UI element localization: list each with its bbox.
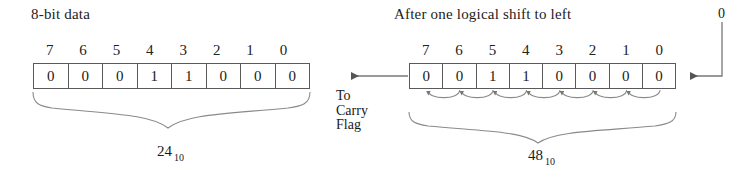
shift-arrow-group bbox=[428, 90, 660, 98]
before-bit-index-1: 6 bbox=[66, 40, 99, 60]
before-decimal-base: 10 bbox=[174, 152, 184, 163]
after-bit-cell-5: 0 bbox=[576, 64, 609, 88]
shift-arrow-6 bbox=[629, 90, 660, 98]
after-decimal-base: 10 bbox=[545, 156, 555, 167]
after-bit-cell-3: 1 bbox=[510, 64, 543, 88]
after-bit-index-4: 3 bbox=[543, 40, 576, 60]
after-bit-index-row: 76543210 bbox=[409, 40, 676, 60]
after-decimal-value: 4810 bbox=[528, 147, 553, 164]
before-bit-index-3: 4 bbox=[133, 40, 166, 60]
before-bit-cell-2: 0 bbox=[103, 64, 138, 88]
shift-arrow-0 bbox=[428, 90, 459, 98]
carry-flag-line-2: Carry bbox=[336, 104, 368, 119]
after-bit-index-3: 4 bbox=[509, 40, 542, 60]
after-bit-cell-0: 0 bbox=[410, 64, 443, 88]
before-decimal-value: 2410 bbox=[157, 143, 182, 160]
after-bit-cell-6: 0 bbox=[610, 64, 643, 88]
before-decimal-number: 24 bbox=[157, 143, 172, 159]
after-decimal-number: 48 bbox=[528, 147, 543, 163]
after-bit-index-5: 2 bbox=[576, 40, 609, 60]
shift-arrow-2 bbox=[495, 90, 526, 98]
carry-flag-label: To Carry Flag bbox=[336, 89, 368, 133]
after-bit-cell-1: 0 bbox=[443, 64, 476, 88]
shift-left-diagram: 8-bit data After one logical shift to le… bbox=[0, 0, 744, 177]
before-bit-index-7: 0 bbox=[267, 40, 300, 60]
after-bit-index-2: 5 bbox=[476, 40, 509, 60]
shift-arrow-5 bbox=[595, 90, 626, 98]
before-bit-cell-0: 0 bbox=[34, 64, 69, 88]
after-bit-cell-4: 0 bbox=[543, 64, 576, 88]
before-bit-index-0: 7 bbox=[33, 40, 66, 60]
before-value-brace bbox=[33, 92, 310, 128]
shift-arrow-3 bbox=[529, 90, 560, 98]
carry-flag-line-3: Flag bbox=[336, 118, 368, 133]
shift-arrow-4 bbox=[562, 90, 593, 98]
before-bit-index-6: 1 bbox=[233, 40, 266, 60]
before-bit-cell-7: 0 bbox=[276, 64, 310, 88]
after-bit-cell-7: 0 bbox=[643, 64, 675, 88]
before-panel-title: 8-bit data bbox=[31, 6, 90, 23]
after-bit-index-0: 7 bbox=[409, 40, 442, 60]
after-bit-cell-2: 1 bbox=[477, 64, 510, 88]
before-bit-index-5: 2 bbox=[200, 40, 233, 60]
before-bit-cell-5: 0 bbox=[207, 64, 242, 88]
shift-in-zero-label: 0 bbox=[718, 6, 725, 22]
before-bit-index-row: 76543210 bbox=[33, 40, 310, 60]
before-bit-cell-4: 1 bbox=[172, 64, 207, 88]
shift-arrow-1 bbox=[462, 90, 493, 98]
after-panel-title: After one logical shift to left bbox=[394, 6, 571, 23]
before-bit-index-4: 3 bbox=[167, 40, 200, 60]
shift-in-arrow bbox=[690, 22, 722, 76]
after-bit-index-1: 6 bbox=[442, 40, 475, 60]
after-bit-index-6: 1 bbox=[609, 40, 642, 60]
before-bit-cell-6: 0 bbox=[241, 64, 276, 88]
before-bit-box: 00011000 bbox=[33, 63, 310, 89]
before-bit-cell-1: 0 bbox=[69, 64, 104, 88]
after-value-brace bbox=[409, 112, 676, 143]
carry-flag-line-1: To bbox=[336, 89, 368, 104]
after-bit-box: 00110000 bbox=[409, 63, 676, 89]
before-bit-cell-3: 1 bbox=[138, 64, 173, 88]
before-bit-index-2: 5 bbox=[100, 40, 133, 60]
after-bit-index-7: 0 bbox=[643, 40, 676, 60]
